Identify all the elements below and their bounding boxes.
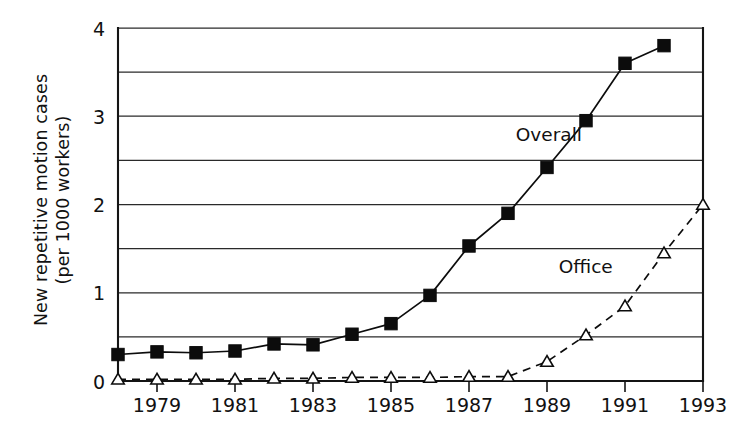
data-point [619, 300, 631, 311]
y-tick-label-2: 2 [93, 194, 105, 216]
x-tick-label-1983: 1983 [289, 394, 337, 416]
data-point [502, 207, 514, 219]
data-point [463, 240, 475, 252]
data-point [385, 317, 397, 329]
series-overall [112, 39, 670, 360]
data-point [151, 346, 163, 358]
series-layer [112, 39, 709, 384]
data-point [424, 289, 436, 301]
x-tick-label-1993: 1993 [679, 394, 727, 416]
x-tick-label-1987: 1987 [445, 394, 493, 416]
chart-figure: New repetitive motion cases (per 1000 wo… [0, 0, 749, 431]
data-point [658, 39, 670, 51]
y-tick-label-4: 4 [93, 18, 105, 40]
chart-plot-area: 4 3 2 1 0 1979 1981 1983 1985 1987 1989 … [0, 0, 749, 431]
data-point [346, 328, 358, 340]
x-tick-label-1989: 1989 [523, 394, 571, 416]
gridlines-horizontal [118, 28, 703, 337]
series-line-overall [118, 46, 664, 355]
data-point [580, 329, 592, 340]
data-point [190, 347, 202, 359]
data-point [541, 161, 553, 173]
data-point [541, 356, 553, 367]
overall-label: Overall [516, 124, 582, 145]
x-tick-label-1985: 1985 [367, 394, 415, 416]
x-tick-label-1981: 1981 [211, 394, 259, 416]
data-point [268, 338, 280, 350]
data-point [112, 348, 124, 360]
office-label: Office [559, 256, 613, 277]
y-tick-labels: 4 3 2 1 0 [93, 18, 105, 393]
data-point [424, 372, 436, 383]
y-tick-label-3: 3 [93, 106, 105, 128]
y-tick-label-1: 1 [93, 282, 105, 304]
x-tick-labels: 1979 1981 1983 1985 1987 1989 1991 1993 [133, 394, 727, 416]
y-tick-label-0: 0 [93, 371, 105, 393]
x-tick-label-1979: 1979 [133, 394, 181, 416]
data-point [307, 339, 319, 351]
data-point [619, 57, 631, 69]
x-tick-label-1991: 1991 [601, 394, 649, 416]
data-point [229, 345, 241, 357]
